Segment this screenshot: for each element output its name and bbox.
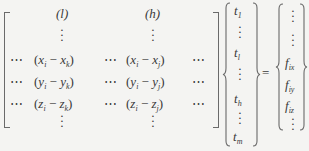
rhs-right-brace	[298, 3, 308, 131]
hdots: ⋯	[10, 97, 23, 111]
matrix-right-bracket	[213, 12, 219, 128]
hdots: ⋯	[10, 75, 23, 89]
hdots: ⋯	[104, 53, 117, 67]
vdots: ···	[235, 66, 245, 81]
vdots: ···	[148, 27, 158, 42]
hdots: ⋯	[192, 75, 205, 89]
t-m: tm	[233, 130, 242, 149]
t-vector-right-brace	[251, 2, 261, 147]
equals-sign: =	[262, 66, 269, 80]
vdots: ···	[288, 116, 298, 131]
vdots: ···	[235, 110, 245, 125]
vdots: ···	[57, 27, 67, 42]
hdots: ⋯	[104, 97, 117, 111]
cell-y-ik: (yi − yk)	[34, 75, 74, 94]
hdots: ⋯	[104, 75, 117, 89]
vdots: ···	[235, 24, 245, 39]
t-vector-left-brace	[222, 2, 232, 147]
col-header-h: (h)	[145, 7, 160, 21]
vdots: ···	[148, 113, 158, 128]
f-ix: fix	[285, 56, 294, 75]
vdots: ···	[57, 113, 67, 128]
cell-y-ij: (yi − yj)	[126, 75, 165, 94]
vdots: ···	[288, 32, 298, 47]
hdots: ⋯	[10, 53, 23, 67]
hdots: ⋯	[192, 97, 205, 111]
col-header-l: (l)	[56, 7, 68, 21]
cell-x-ij: (xi − xj)	[126, 53, 165, 72]
f-iy: fiy	[285, 78, 294, 97]
cell-x-ik: (xi − xk)	[34, 53, 74, 72]
vdots: ···	[288, 8, 298, 23]
rhs-left-brace	[275, 3, 285, 131]
hdots: ⋯	[192, 53, 205, 67]
